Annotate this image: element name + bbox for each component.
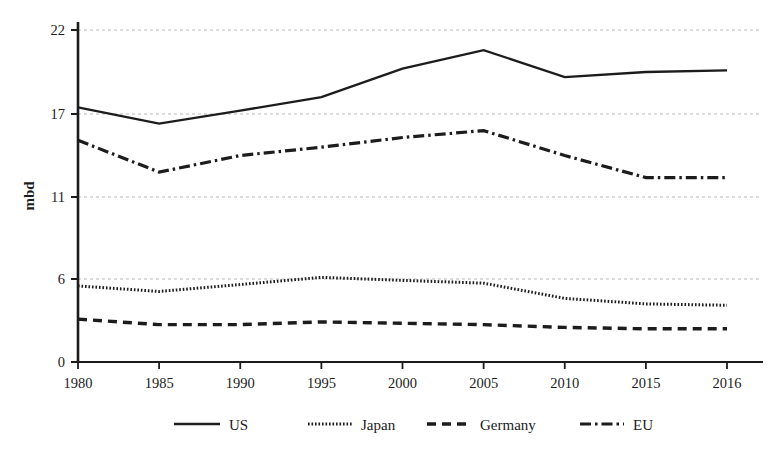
y-axis-ticks: 06111722 (51, 22, 79, 370)
x-tick-label-2016: 2016 (713, 375, 742, 391)
x-tick-label-1985: 1985 (145, 375, 174, 391)
x-tick-label-2005: 2005 (469, 375, 498, 391)
x-tick-label-1980: 1980 (64, 375, 93, 391)
series-line-us (78, 50, 727, 124)
x-tick-label-2015: 2015 (631, 375, 660, 391)
y-tick-label-22: 22 (51, 22, 66, 38)
series-group (78, 50, 727, 329)
chart-figure: 06111722mbd19801985199019952000200520102… (0, 0, 782, 454)
x-axis-ticks: 198019851990199520002005201020152016 (64, 362, 742, 391)
x-tick-label-2010: 2010 (550, 375, 579, 391)
axes-group (78, 22, 763, 362)
x-tick-label-2000: 2000 (388, 375, 417, 391)
legend-label-eu: EU (633, 417, 653, 433)
legend-label-us: US (229, 417, 248, 433)
series-line-germany (78, 319, 727, 329)
y-axis-title: mbd (21, 181, 37, 211)
y-tick-label-6: 6 (58, 271, 65, 287)
y-tick-label-0: 0 (58, 354, 65, 370)
x-tick-label-1990: 1990 (226, 375, 255, 391)
series-line-japan (78, 277, 727, 305)
series-line-eu (78, 131, 727, 178)
x-tick-label-1995: 1995 (307, 375, 336, 391)
legend-label-germany: Germany (480, 417, 536, 433)
gridlines-group (78, 30, 760, 279)
legend: USJapanGermanyEU (174, 417, 653, 433)
line-chart-canvas: 06111722mbd19801985199019952000200520102… (0, 0, 782, 454)
y-tick-label-17: 17 (51, 106, 66, 122)
y-tick-label-11: 11 (51, 189, 65, 205)
legend-label-japan: Japan (361, 417, 396, 433)
